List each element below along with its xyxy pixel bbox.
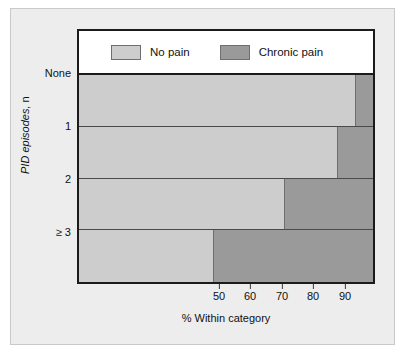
bar-row-none (79, 75, 373, 127)
bar-segment-no-pain-3-plus (79, 230, 214, 282)
plot-frame: No pain Chronic pain (77, 29, 375, 284)
bar-row-2 (79, 179, 373, 231)
bar-row-1 (79, 127, 373, 179)
bar-segment-no-pain-1 (79, 127, 338, 178)
x-tick-label-50: 50 (213, 290, 225, 302)
x-tick-label-90: 90 (339, 290, 351, 302)
figure-panel: PID episodes, n None 1 2 ≥ 3 No pain Chr… (10, 8, 395, 345)
bar-segment-chronic-pain-1 (338, 127, 373, 178)
x-tick-70: 70 (276, 284, 288, 302)
legend-item-chronic-pain: Chronic pain (220, 45, 324, 60)
bar-row-3-plus (79, 230, 373, 282)
x-tick-90: 90 (339, 284, 351, 302)
x-tick-mark-70 (282, 284, 283, 289)
bar-segment-no-pain-2 (79, 179, 285, 230)
y-tick-label-2: 2 (65, 173, 71, 185)
legend-label-no-pain: No pain (150, 46, 190, 58)
x-tick-label-70: 70 (276, 290, 288, 302)
x-tick-mark-90 (345, 284, 346, 289)
x-tick-mark-60 (250, 284, 251, 289)
y-tick-label-3-plus: ≥ 3 (56, 226, 71, 238)
bar-segment-chronic-pain-none (356, 75, 373, 126)
bars-area (79, 75, 373, 282)
legend-label-chronic-pain: Chronic pain (259, 46, 324, 58)
legend-swatch-chronic-pain (220, 45, 250, 60)
x-tick-label-60: 60 (244, 290, 256, 302)
x-tick-mark-80 (313, 284, 314, 289)
x-tick-80: 80 (307, 284, 319, 302)
y-axis-tick-labels: None 1 2 ≥ 3 (11, 29, 71, 284)
x-tick-50: 50 (213, 284, 225, 302)
bar-segment-chronic-pain-2 (285, 179, 373, 230)
y-tick-label-none: None (45, 67, 71, 79)
bar-segment-chronic-pain-3-plus (214, 230, 373, 282)
legend-item-no-pain: No pain (111, 45, 190, 60)
x-tick-label-80: 80 (307, 290, 319, 302)
legend-swatch-no-pain (111, 45, 141, 60)
bar-segment-no-pain-none (79, 75, 356, 126)
legend: No pain Chronic pain (79, 31, 373, 75)
y-tick-label-1: 1 (65, 120, 71, 132)
x-axis-title: % Within category (77, 312, 375, 324)
x-tick-mark-50 (219, 284, 220, 289)
x-axis-ticks: 50 60 70 80 90 (77, 284, 375, 308)
x-tick-60: 60 (244, 284, 256, 302)
